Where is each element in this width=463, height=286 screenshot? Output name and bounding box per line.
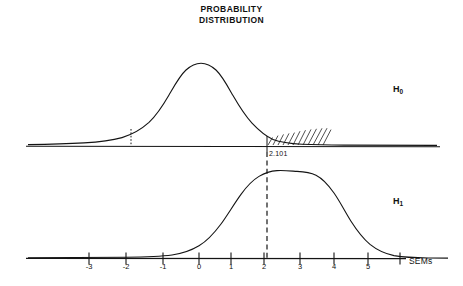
h0-label-text: H: [393, 84, 400, 94]
h1-label: H1: [393, 196, 403, 206]
h1-panel: [26, 170, 448, 264]
tick-label-0: 0: [191, 262, 207, 271]
h0-label: H0: [393, 84, 403, 94]
h1-curve: [28, 170, 448, 258]
tick-label-neg3: -3: [81, 262, 97, 271]
tick-label-1: 1: [223, 262, 239, 271]
h0-curve: [28, 63, 437, 145]
critical-value-label: 2.101: [269, 150, 288, 157]
h1-label-text: H: [393, 196, 400, 206]
h0-baseline: [26, 146, 440, 147]
tick-label-neg1: -1: [155, 262, 171, 271]
probability-distribution-figure: PROBABILITY DISTRIBUTION: [0, 0, 463, 286]
h0-label-subscript: 0: [400, 88, 404, 95]
h1-label-subscript: 1: [400, 200, 404, 207]
tick-label-3: 3: [292, 262, 308, 271]
tick-label-neg2: -2: [118, 262, 134, 271]
h0-panel: [26, 63, 440, 152]
distribution-plot: [0, 0, 463, 286]
tick-label-5: 5: [360, 262, 376, 271]
axis-unit-label: SEMs: [409, 256, 432, 266]
tick-label-2: 2: [256, 262, 272, 271]
rejection-region-hatching: [267, 127, 332, 145]
tick-label-4: 4: [326, 262, 342, 271]
